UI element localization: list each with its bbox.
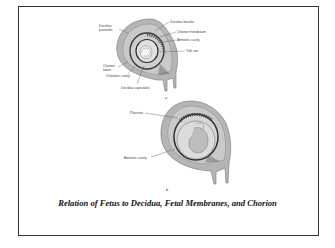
panel-a-uterus-drawing	[117, 19, 178, 91]
label-yolk-sac: Yolk sac	[186, 49, 199, 53]
label-decidua-basalis: Decidua basalis	[170, 20, 194, 24]
label-placenta: Placenta	[130, 111, 143, 115]
label-amniotic-cavity-b: Amniotic cavity	[124, 156, 147, 160]
panel-b-sublabel: b	[166, 187, 168, 192]
label-decidua-capsularis: Decidua capsularis	[121, 86, 150, 90]
diagram-illustration	[0, 0, 335, 248]
label-decidua-parietalis-line2: parietalis	[99, 28, 113, 32]
panel-b-uterus-drawing	[161, 101, 231, 184]
label-chorionic-cavity: Chorionic cavity	[106, 74, 130, 78]
figure-caption: Relation of Fetus to Decidua, Fetal Memb…	[0, 198, 335, 208]
label-chorion-frondosum: Chorion frondosum	[177, 30, 206, 34]
panel-a-sublabel: a	[165, 95, 167, 100]
label-amniotic-cavity-a: Amniotic cavity	[177, 38, 200, 42]
label-chorion-laeve-line2: laeve	[103, 68, 111, 72]
